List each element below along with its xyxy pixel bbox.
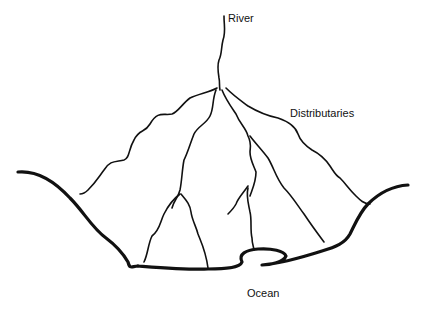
coastline-left	[18, 172, 138, 267]
river-label: River	[228, 12, 254, 24]
distributary-center	[222, 90, 256, 196]
delta-diagram	[0, 0, 444, 312]
distributary-center-south	[247, 188, 254, 250]
distributary-right-center	[250, 136, 324, 242]
distributary-branch-sw	[144, 194, 180, 262]
coastline-bottom	[138, 185, 408, 269]
distributary-branch-s	[181, 194, 208, 268]
distributary-far-left	[80, 88, 217, 194]
distributary-center-spur	[228, 186, 248, 214]
river-trunk	[218, 16, 225, 90]
distributary-left-center	[172, 90, 216, 208]
ocean-label: Ocean	[247, 287, 279, 299]
distributaries-label: Distributaries	[290, 107, 354, 119]
